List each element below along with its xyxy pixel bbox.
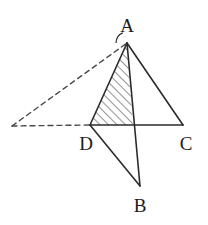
segment-D-B [90, 125, 140, 186]
vertex-label-b: B [134, 196, 147, 215]
segment-A-C [127, 43, 183, 125]
vertex-label-c: C [180, 134, 193, 153]
geometry-figure: A B C D [0, 0, 208, 225]
hatched-triangle-A-D-M [90, 43, 133, 125]
dashed-segment-E-D [12, 125, 90, 126]
vertex-label-a: A [120, 16, 134, 35]
vertex-label-d: D [79, 134, 93, 153]
geometry-canvas [0, 0, 208, 225]
